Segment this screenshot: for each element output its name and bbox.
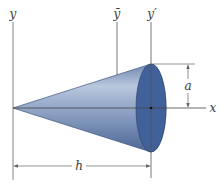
dim-h-arrow-left [13, 164, 18, 167]
label-y: y [9, 7, 17, 21]
label-x: x [210, 101, 217, 115]
label-y-bar: ȳ [113, 7, 121, 21]
label-a: a [184, 79, 191, 93]
cone-diagram: a h y ȳ y′ x [0, 0, 224, 190]
dim-a-arrow-top [186, 64, 189, 69]
dim-a-arrow-bottom [186, 103, 189, 108]
centroid-dot [150, 107, 153, 110]
label-h: h [75, 159, 83, 173]
dim-h-arrow-right [146, 164, 151, 167]
label-y-prime: y′ [146, 7, 157, 21]
